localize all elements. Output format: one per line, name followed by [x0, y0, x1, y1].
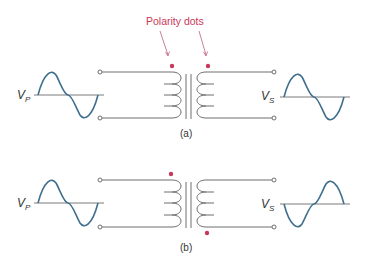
vp-label: VP	[17, 88, 31, 104]
polarity-dots-label: Polarity dots	[146, 15, 204, 27]
terminal-icon	[98, 70, 102, 74]
caption-a: (a)	[180, 128, 192, 139]
callout-arrow-primary	[160, 31, 168, 55]
terminal-icon	[98, 178, 102, 182]
terminal-icon	[272, 116, 276, 120]
caption-b: (b)	[180, 242, 192, 253]
polarity-dots-callout: Polarity dots	[146, 15, 208, 56]
primary-waveform	[34, 72, 104, 117]
vp-label: VP	[17, 196, 31, 212]
polarity-dot-secondary	[205, 231, 209, 235]
polarity-dot-primary	[170, 64, 174, 68]
terminal-icon	[272, 70, 276, 74]
terminal-icon	[98, 225, 102, 229]
polarity-dot-primary	[169, 172, 173, 176]
diagram-a: VP VS (a)	[17, 64, 350, 139]
transformer-polarity-diagram: Polarity dots VP	[0, 0, 365, 261]
primary-coil	[172, 72, 181, 118]
vs-label: VS	[261, 89, 275, 105]
terminal-icon	[272, 225, 276, 229]
polarity-dot-secondary	[206, 64, 210, 68]
callout-arrow-secondary	[199, 31, 206, 55]
secondary-waveform	[280, 181, 350, 226]
primary-coil	[172, 180, 181, 227]
terminal-icon	[272, 178, 276, 182]
secondary-coil	[197, 72, 206, 118]
secondary-waveform	[280, 74, 350, 119]
vs-label: VS	[261, 197, 275, 213]
diagram-b: VP VS (b)	[17, 172, 350, 253]
primary-waveform	[34, 180, 104, 225]
secondary-coil	[197, 180, 206, 227]
terminal-icon	[98, 116, 102, 120]
